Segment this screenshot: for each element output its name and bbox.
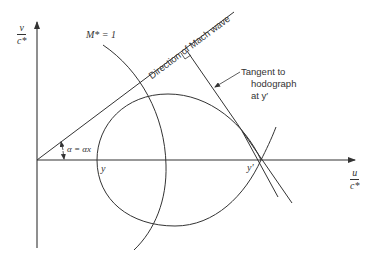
v-axis-label-den: c*: [17, 35, 26, 46]
hodograph-extension: [261, 127, 276, 160]
tangent-label-line1: Tangent to: [241, 67, 285, 77]
point-y-label: y: [101, 164, 105, 174]
angle-label: α = αx: [67, 145, 91, 154]
angle-arrow: [61, 142, 63, 150]
tangent-label-line2: hodograph: [251, 79, 296, 89]
angle-arrow-lower: [63, 151, 64, 159]
tangent-leader: [215, 72, 240, 87]
u-axis-label-num: u: [350, 168, 359, 180]
tangent-label-line3: at y′: [251, 91, 268, 101]
sonic-circle-label: M* = 1: [86, 30, 116, 40]
point-y-prime-label: y′: [247, 163, 254, 173]
u-axis-label-den: c*: [350, 180, 359, 191]
v-axis-label: v c*: [17, 23, 26, 46]
v-axis-label-num: v: [17, 23, 26, 35]
u-axis-label: u c*: [350, 168, 359, 191]
